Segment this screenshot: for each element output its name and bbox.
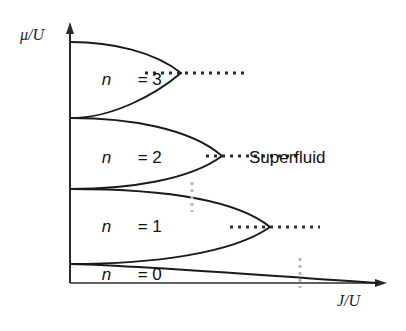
mott-lobe-label-n0-value: = 0 xyxy=(138,265,162,284)
x-axis-label: J/U xyxy=(337,292,362,309)
mott-insulator-phase-diagram: μ/U J/U n = 3 n = 2 n xyxy=(0,0,406,331)
mott-lobe-label-n1: n = 1 xyxy=(78,217,176,236)
mott-lobe-label-n3-value: = 3 xyxy=(138,70,162,89)
mott-lobe-label-n2-value: = 2 xyxy=(138,148,162,167)
y-axis-arrowhead xyxy=(66,22,74,34)
mott-lobe-label-n1-var: n xyxy=(102,217,111,236)
mott-lobe-label-n1-value: = 1 xyxy=(138,217,162,236)
mott-lobe-label-n3: n = 3 xyxy=(78,70,176,89)
mott-lobe-label-n3-var: n xyxy=(102,70,111,89)
mott-lobe-label-n0-var: n xyxy=(102,265,111,284)
mott-lobe-label-n2-var: n xyxy=(102,148,111,167)
y-axis-label: μ/U xyxy=(19,26,45,44)
mott-lobe-label-n0: n = 0 xyxy=(78,265,176,284)
mott-lobe-label-n2: n = 2 xyxy=(78,148,176,167)
superfluid-label: Superfluid xyxy=(249,148,326,167)
mott-lobe-n3-upper-branch xyxy=(71,42,181,73)
